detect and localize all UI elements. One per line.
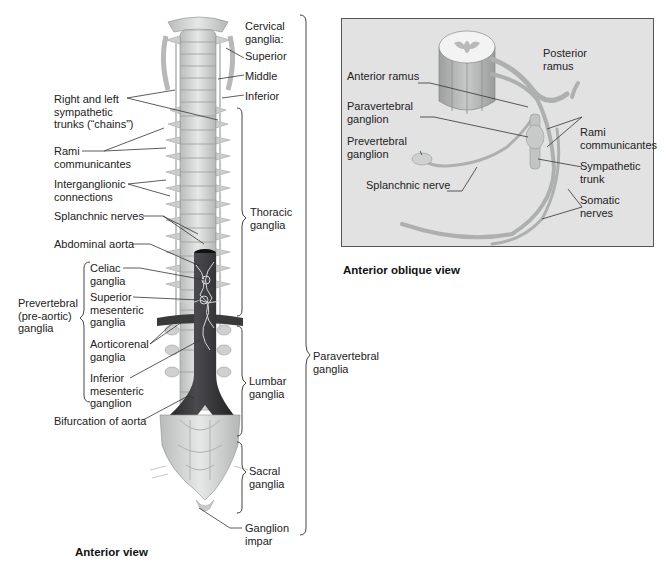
label-somatic-nerves: Somatic nerves <box>580 194 620 219</box>
spinal-cord <box>439 31 495 114</box>
sacrum <box>160 415 240 500</box>
label-superior-mesenteric: Superior mesenteric ganglia <box>90 291 144 329</box>
label-rami-communicantes: Rami communicantes <box>54 145 131 170</box>
coccyx <box>196 500 214 511</box>
label-sympathetic-trunks: Right and left sympathetic trunks (“chai… <box>54 93 133 131</box>
caption-anterior-oblique-view: Anterior oblique view <box>343 264 460 276</box>
label-prevertebral-ganglia: Prevertebral (pre-aortic) ganglia <box>18 297 78 335</box>
label-anterior-ramus: Anterior ramus <box>347 70 419 83</box>
label-ganglion-impar: Ganglion impar <box>245 522 289 547</box>
label-middle-cervical: Middle <box>245 70 277 83</box>
label-inferior-cervical: Inferior <box>245 90 279 103</box>
label-rami-communicantes-right: Rami communicantes <box>580 126 657 151</box>
abdominal-aorta <box>162 249 238 432</box>
label-celiac-ganglia: Celiac ganglia <box>90 262 125 287</box>
label-inferior-mesenteric: Inferior mesenteric ganglion <box>90 372 144 410</box>
label-splanchnic-nerves: Splanchnic nerves <box>54 210 144 223</box>
label-aorticorenal-ganglia: Aorticorenal ganglia <box>90 338 149 363</box>
label-prevertebral-ganglion: Prevertebral ganglion <box>347 135 407 160</box>
label-interganglionic-connections: Interganglionic connections <box>54 178 126 203</box>
label-paravertebral-ganglion: Paravertebral ganglion <box>347 100 413 125</box>
label-thoracic-ganglia: Thoracic ganglia <box>250 206 292 231</box>
label-sympathetic-trunk: Sympathetic trunk <box>580 160 641 185</box>
label-splanchnic-nerve: Splanchnic nerve <box>366 179 450 192</box>
caption-anterior-view: Anterior view <box>75 546 148 558</box>
label-cervical-ganglia: Cervical ganglia: <box>245 20 285 45</box>
label-sacral-ganglia: Sacral ganglia <box>249 465 284 490</box>
label-paravertebral-ganglia: Paravertebral ganglia <box>313 350 379 375</box>
label-abdominal-aorta: Abdominal aorta <box>54 238 134 251</box>
paravertebral-ganglion <box>526 125 544 149</box>
label-lumbar-ganglia: Lumbar ganglia <box>249 375 286 400</box>
label-superior-cervical: Superior <box>245 50 287 63</box>
label-bifurcation-of-aorta: Bifurcation of aorta <box>54 415 146 428</box>
label-posterior-ramus: Posterior ramus <box>543 47 587 72</box>
